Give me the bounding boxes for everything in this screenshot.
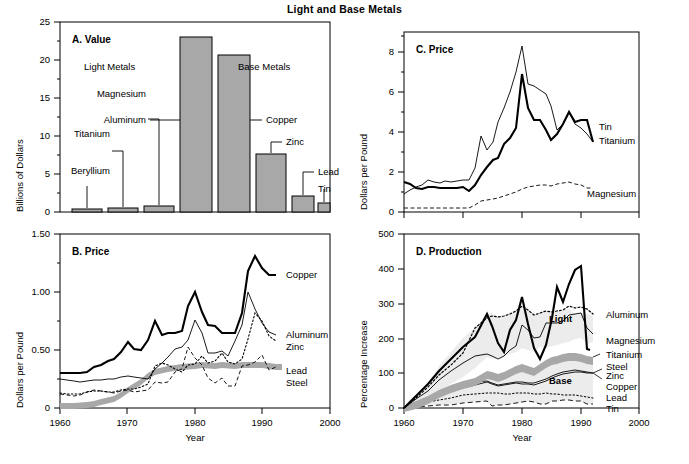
bar-titanium <box>108 208 138 212</box>
svg-text:1960: 1960 <box>393 417 414 428</box>
svg-text:500: 500 <box>378 228 394 239</box>
label-d-copper: Copper <box>606 381 637 392</box>
panel-d-xlabel-text: Year <box>512 432 531 443</box>
svg-text:200: 200 <box>378 333 394 344</box>
bar-zinc <box>256 154 286 212</box>
panel-d-svg: 0 100 200 300 400 500 1960 1970 1980 199… <box>344 226 689 464</box>
svg-text:1990: 1990 <box>570 417 591 428</box>
panel-d-ylabel: Percentage Increase <box>358 320 369 408</box>
panel-c-ylabel: Dollars per Pound <box>358 134 369 210</box>
panel-b-x-tick-labels: 1960 1970 1980 1990 2000 <box>49 417 340 428</box>
label-c-titanium: Titanium <box>599 135 635 146</box>
label-b-copper: Copper <box>286 269 317 280</box>
panel-d-y-ticks <box>398 234 404 408</box>
svg-text:300: 300 <box>378 298 394 309</box>
bar-beryllium <box>72 209 102 212</box>
svg-text:2: 2 <box>389 166 394 177</box>
label-titanium: Titanium <box>74 128 110 139</box>
panel-a-y-ticks <box>54 22 60 212</box>
label-light-metals: Light Metals <box>84 61 135 72</box>
svg-text:1970: 1970 <box>116 417 137 428</box>
label-lead: Lead <box>318 166 339 177</box>
panel-c-svg: 0 2 4 6 8 C. Price Tin <box>344 14 689 226</box>
svg-text:2000: 2000 <box>628 417 649 428</box>
label-d-tin: Tin <box>606 403 619 414</box>
svg-text:2000: 2000 <box>319 417 340 428</box>
panel-b-price: 0 0.50 1.00 1.50 1960 1970 1980 1990 200… <box>0 226 345 464</box>
svg-text:1960: 1960 <box>49 417 70 428</box>
svg-text:1980: 1980 <box>511 417 532 428</box>
svg-text:15: 15 <box>39 92 50 103</box>
panel-d-x-ticks <box>404 408 639 414</box>
panel-a-y-tick-labels: 0 5 10 15 20 25 <box>39 16 50 217</box>
panel-d-production: 0 100 200 300 400 500 1960 1970 1980 199… <box>344 226 689 464</box>
label-c-tin: Tin <box>599 121 612 132</box>
label-b-aluminum: Aluminum <box>286 329 328 340</box>
panel-a-svg: 0 5 10 15 20 25 <box>0 14 345 226</box>
label-c-magnesium: Magnesium <box>587 188 636 199</box>
label-b-steel: Steel <box>286 377 308 388</box>
panel-c-y-ticks <box>398 36 404 212</box>
svg-text:0: 0 <box>45 402 50 413</box>
annotation-base: Base <box>549 375 572 386</box>
panel-d-title: D. Production <box>416 246 482 257</box>
label-d-zinc: Zinc <box>606 370 624 381</box>
bar-aluminum <box>180 37 212 212</box>
label-aluminum: Aluminum <box>104 114 146 125</box>
svg-text:100: 100 <box>378 367 394 378</box>
annotation-light: Light <box>549 313 573 324</box>
svg-text:25: 25 <box>39 16 50 27</box>
svg-text:4: 4 <box>389 126 394 137</box>
svg-text:1970: 1970 <box>452 417 473 428</box>
panel-b-svg: 0 0.50 1.00 1.50 1960 1970 1980 1990 200… <box>0 226 345 464</box>
panel-a-ylabel: Billions of Dollars <box>14 139 25 212</box>
label-zinc: Zinc <box>286 136 304 147</box>
panel-b-y-tick-labels: 0 0.50 1.00 1.50 <box>32 228 51 413</box>
panel-b-xlabel-text: Year <box>185 432 204 443</box>
svg-text:8: 8 <box>389 46 394 57</box>
panel-a-value: 0 5 10 15 20 25 <box>0 14 345 226</box>
svg-text:1.50: 1.50 <box>32 228 51 239</box>
label-magnesium: Magnesium <box>97 88 146 99</box>
figure-light-and-base-metals: Light and Base Metals 0 5 <box>0 0 689 464</box>
svg-text:0: 0 <box>45 206 50 217</box>
svg-text:10: 10 <box>39 130 50 141</box>
svg-text:0: 0 <box>389 402 394 413</box>
panel-b-x-ticks <box>60 408 330 414</box>
label-beryllium: Beryllium <box>71 165 110 176</box>
panel-b-y-ticks <box>54 234 60 408</box>
label-base-metals: Base Metals <box>238 61 291 72</box>
panel-c-price: 0 2 4 6 8 C. Price Tin <box>344 14 689 226</box>
label-copper: Copper <box>266 114 297 125</box>
svg-text:0.50: 0.50 <box>32 344 51 355</box>
label-tin: Tin <box>318 183 331 194</box>
svg-text:1980: 1980 <box>184 417 205 428</box>
svg-text:400: 400 <box>378 263 394 274</box>
panel-c-y-tick-labels: 0 2 4 6 8 <box>389 46 394 217</box>
bar-lead <box>292 196 314 212</box>
label-d-aluminum: Aluminum <box>606 309 648 320</box>
svg-text:20: 20 <box>39 54 50 65</box>
svg-text:6: 6 <box>389 86 394 97</box>
bar-tin <box>318 203 330 212</box>
label-d-magnesium: Magnesium <box>606 335 655 346</box>
panel-c-title: C. Price <box>416 44 454 55</box>
panel-a-title: A. Value <box>72 34 111 45</box>
label-d-lead: Lead <box>606 392 627 403</box>
bar-magnesium <box>144 206 174 212</box>
label-b-lead: Lead <box>286 365 307 376</box>
svg-text:0: 0 <box>389 206 394 217</box>
panel-b-ylabel: Dollars per Pound <box>14 332 25 408</box>
panel-d-y-tick-labels: 0 100 200 300 400 500 <box>378 228 394 413</box>
svg-text:5: 5 <box>45 168 50 179</box>
panel-c-x-ticks <box>404 212 639 218</box>
svg-text:1990: 1990 <box>251 417 272 428</box>
label-b-zinc: Zinc <box>286 341 304 352</box>
bar-copper <box>218 55 250 212</box>
panel-b-title: B. Price <box>72 246 110 257</box>
label-d-titanium: Titanium <box>606 349 642 360</box>
svg-text:1.00: 1.00 <box>32 286 51 297</box>
panel-d-x-tick-labels: 1960 1970 1980 1990 2000 <box>393 417 649 428</box>
